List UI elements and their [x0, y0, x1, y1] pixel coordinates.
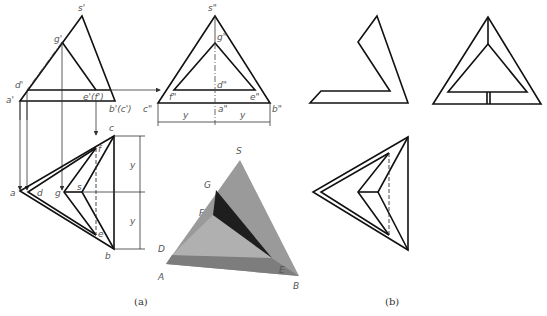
label-y-top: y [129, 160, 136, 170]
label-d-prime: d' [15, 80, 23, 90]
label-B: B [293, 281, 299, 291]
label-F: F [199, 208, 205, 218]
label-b-dprime: b" [272, 104, 282, 114]
label-d-dprime: d" [217, 80, 227, 90]
label-a: a [10, 188, 16, 198]
label-s: s [77, 182, 82, 192]
label-D: D [158, 244, 165, 254]
side-view: s" g" d" f" e" c" a" b" y y [143, 3, 282, 126]
b-top-s-v [378, 137, 408, 250]
front-inner-edge [62, 42, 96, 90]
caption-b: (b) [385, 296, 399, 307]
front-outer-triangle [20, 16, 115, 101]
caption-a: (a) [134, 296, 148, 307]
label-a-prime: a' [6, 95, 14, 105]
top-view: c f a d g s e b y y [10, 101, 145, 261]
label-b: b [105, 251, 111, 261]
label-g-dprime: g" [217, 32, 227, 42]
label-c-dprime: c" [143, 104, 152, 114]
label-E: E [279, 265, 285, 275]
front-view: s' g' d' a' e'(f') b'(c') [6, 3, 160, 120]
label-g: g [55, 188, 61, 198]
solid-view: S G F D A E B [157, 146, 299, 291]
label-g-prime: g' [54, 34, 62, 44]
label-f: f [98, 144, 103, 154]
front-hidden-edge [27, 42, 62, 90]
label-c: c [109, 123, 114, 133]
label-ef-prime: e'(f') [83, 92, 104, 102]
label-f-dprime: f" [169, 92, 176, 102]
label-G: G [204, 180, 211, 190]
view-b-top [313, 137, 408, 250]
label-S: S [236, 146, 242, 156]
label-e-dprime: e" [250, 92, 260, 102]
b-side-inner [448, 44, 527, 92]
b-front-shape [310, 16, 408, 103]
label-y-right: y [239, 110, 246, 120]
label-s-prime: s' [78, 3, 85, 13]
label-d: d [37, 188, 43, 198]
label-bc-prime: b'(c') [109, 104, 132, 114]
label-y-bottom: y [129, 216, 136, 226]
label-e: e [98, 229, 104, 239]
side-inner-triangle [174, 43, 255, 90]
label-y-left: y [182, 110, 189, 120]
view-b-side [433, 17, 541, 104]
label-s-dprime: s" [208, 3, 217, 13]
label-A: A [157, 272, 164, 282]
b-top-outer [313, 137, 408, 250]
label-a-dprime: a" [218, 104, 228, 114]
view-b-front [310, 16, 408, 103]
projection-diagram: s' g' d' a' e'(f') b'(c') s" g" d" f" e"… [0, 0, 547, 316]
